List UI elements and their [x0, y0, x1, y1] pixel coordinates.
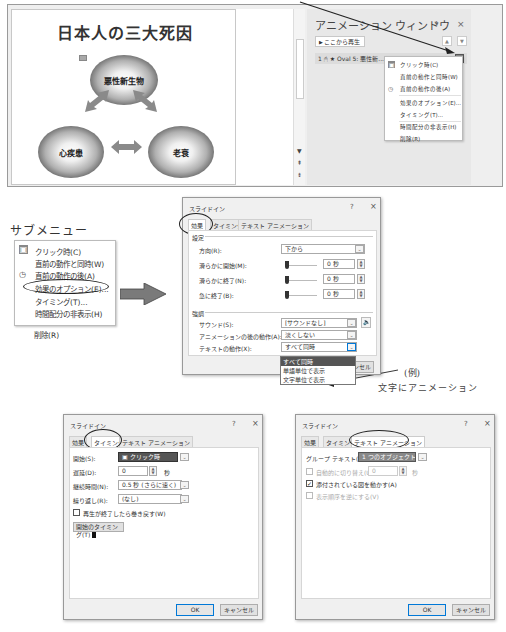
move-up-button[interactable]: ▲ [442, 36, 452, 46]
text-animation-dialog: スライドイン ? × 効果 タイミング テキスト アニメーション グループ テキ… [295, 414, 495, 620]
submenu-enlarged: ▣ クリック時(C) 直前の動作と同時(W) ◷ 直前の動作の後(A) 効果のオ… [14, 240, 116, 326]
smooth-end-slider[interactable] [285, 280, 317, 281]
close-button[interactable]: × [484, 419, 491, 428]
chevron-down-icon[interactable]: ⌄ [347, 319, 356, 327]
smooth-end-input[interactable]: 0 秒 [323, 274, 355, 284]
slider-thumb[interactable] [285, 261, 289, 269]
dialog-title: スライドイン [189, 204, 225, 213]
auto-checkbox[interactable] [306, 468, 313, 475]
spinner-icon[interactable]: ▲▼ [399, 466, 407, 476]
reverse-checkbox[interactable] [306, 492, 313, 499]
spinner-icon[interactable]: ▲▼ [357, 259, 365, 269]
play-from-button[interactable]: ▶ ここから再生 [315, 36, 365, 47]
direction-select[interactable]: 下から [281, 244, 365, 254]
text-animate-select[interactable]: すべて同時 [281, 342, 357, 352]
text-animate-label: テキストの動作(X): [199, 344, 252, 353]
move-down-button[interactable]: ▼ [457, 36, 467, 46]
menu-item-with-previous[interactable]: 直前の動作と同時(W) [400, 73, 458, 81]
triggers-button[interactable]: 開始のタイミング(T) [73, 522, 124, 532]
dialog-body: グループ テキスト(G): 1 つのオブジェクトとして ⌄ 自動的に切り替え(U… [301, 447, 491, 599]
chevron-down-icon[interactable]: ⌄ [180, 495, 189, 503]
animate-shape-checkbox[interactable]: ✓ [306, 480, 313, 487]
rewind-label: 再生が終了したら巻き戻す(W) [83, 509, 166, 518]
dialog-body: 設定 方向(R): 下から ⌄ 滑らかに開始(M): 0 秒 ▲▼ 滑らかに終了… [188, 230, 377, 356]
prev-slide-icon[interactable]: ⇞ [297, 159, 302, 166]
sound-select[interactable]: [サウンドなし] [281, 318, 357, 328]
bounce-end-label: 急に終了(B): [199, 291, 234, 300]
tab-text-animation[interactable]: テキスト アニメーション [119, 436, 193, 447]
next-slide-icon[interactable]: ⇟ [297, 171, 302, 178]
smooth-end-label: 滑らかに終了(N): [199, 276, 246, 285]
delay-input[interactable]: 0 [118, 466, 148, 476]
start-label: 開始(S): [73, 454, 96, 463]
close-button[interactable]: × [370, 202, 377, 211]
annotation-example: (例) [404, 366, 420, 379]
scroll-down-icon[interactable]: ▼ [297, 147, 302, 154]
start-select[interactable]: ▣ クリック時 [118, 452, 178, 462]
spinner-icon[interactable]: ▲▼ [357, 289, 365, 299]
cancel-button[interactable]: キャンセル [220, 604, 258, 616]
submenu-item-timing[interactable]: タイミング(T)... [35, 296, 88, 307]
slider-thumb[interactable] [285, 276, 289, 284]
cancel-button[interactable]: キャンセル [452, 604, 490, 616]
menu-item-remove[interactable]: 削除(R) [400, 135, 420, 143]
tab-text-animation[interactable]: テキスト アニメーション [238, 219, 312, 230]
menu-item-timing[interactable]: タイミング(T)... [400, 111, 443, 119]
ok-button[interactable]: OK [408, 604, 446, 616]
submenu-heading: サブメニュー [10, 221, 88, 238]
big-right-arrow-icon [120, 283, 166, 305]
pane-options-icon[interactable]: ▾ [435, 20, 439, 28]
menu-item-effect-options[interactable]: 効果のオプション(E)... [400, 99, 461, 107]
chevron-down-icon[interactable]: ⌄ [355, 245, 364, 253]
clock-icon: ◷ [19, 270, 28, 279]
group-text-select[interactable]: 1 つのオブジェクトとして [358, 452, 416, 462]
option-all-at-once[interactable]: すべて同時 [281, 357, 355, 366]
play-from-label: ここから再生 [324, 38, 360, 45]
bounce-end-slider[interactable] [285, 295, 317, 296]
spinner-icon[interactable]: ▲▼ [357, 274, 365, 284]
ok-button[interactable]: OK [176, 604, 214, 616]
editor-blank-area [236, 9, 293, 185]
smooth-start-input[interactable]: 0 秒 [323, 259, 355, 269]
slider-thumb[interactable] [285, 291, 289, 299]
scroll-thumb[interactable] [296, 39, 304, 99]
repeat-select[interactable]: (なし) [118, 494, 182, 504]
help-button[interactable]: ? [464, 420, 468, 428]
duration-select[interactable]: 0.5 秒 (さらに速く) [118, 480, 182, 490]
menu-separator [399, 121, 461, 122]
help-button[interactable]: ? [232, 420, 236, 428]
submenu-item-remove[interactable]: 削除(R) [34, 329, 59, 340]
menu-item-on-click[interactable]: クリック時(C) [400, 61, 438, 69]
speaker-icon[interactable]: 🔈 [361, 317, 371, 328]
bounce-end-input[interactable]: 0 秒 [323, 289, 355, 299]
pane-title: アニメーション ウィンドウ [315, 17, 451, 33]
star-icon: ★ [330, 55, 335, 62]
option-by-word[interactable]: 単語単位で表示 [281, 366, 355, 375]
spinner-icon[interactable]: ▲▼ [149, 466, 157, 476]
vertical-scrollbar[interactable]: ▼ ⇞ ⇟ [293, 9, 305, 185]
group-settings: 設定 [192, 233, 204, 242]
submenu-item-with-previous[interactable]: 直前の動作と同時(W) [35, 258, 104, 269]
tab-effect[interactable]: 効果 [301, 436, 319, 447]
menu-item-hide-timeline[interactable]: 時間配分の非表示(H) [400, 123, 456, 131]
menu-item-after-previous[interactable]: 直前の動作の後(A) [400, 85, 450, 93]
help-button[interactable]: ? [350, 203, 354, 211]
submenu-item-hide-timeline[interactable]: 時間配分の非表示(H) [35, 308, 103, 319]
chevron-down-icon[interactable]: ⌄ [347, 343, 356, 351]
smooth-start-slider[interactable] [285, 265, 317, 266]
chevron-down-icon[interactable]: ⌄ [180, 481, 189, 489]
submenu-item-on-click[interactable]: クリック時(C) [35, 246, 81, 257]
auto-unit: 秒 [412, 468, 418, 477]
mouse-icon: ▣ [388, 61, 395, 68]
close-button[interactable]: × [252, 419, 259, 428]
auto-input[interactable]: 0 [368, 466, 398, 476]
after-animation-select[interactable]: 淡くしない [281, 330, 357, 340]
option-by-letter[interactable]: 文字単位で表示 [281, 375, 355, 384]
chevron-down-icon[interactable]: ⌄ [180, 453, 189, 461]
item-name: Oval 5: 悪性新... [337, 55, 384, 62]
double-arrow-right-icon [133, 90, 157, 112]
chevron-down-icon[interactable]: ⌄ [347, 331, 356, 339]
pane-close-icon[interactable]: × [457, 19, 465, 29]
chevron-down-icon[interactable]: ⌄ [418, 453, 427, 461]
rewind-checkbox[interactable] [73, 509, 80, 516]
